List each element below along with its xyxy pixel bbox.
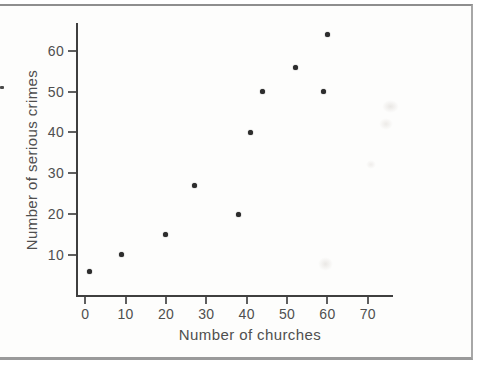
data-point: [87, 269, 92, 274]
x-tick-label: 30: [186, 306, 226, 322]
y-tick: [68, 91, 76, 93]
x-axis-title: Number of churches: [179, 326, 321, 343]
x-tick: [367, 297, 369, 304]
data-point: [192, 183, 197, 188]
y-axis-title: Number of serious crimes: [23, 70, 40, 250]
y-tick: [68, 254, 76, 256]
data-point: [236, 212, 241, 217]
y-tick: [68, 213, 76, 215]
x-tick: [246, 297, 248, 304]
x-tick-label: 10: [106, 306, 146, 322]
data-point: [321, 89, 326, 94]
y-axis-line: [76, 23, 78, 297]
y-tick: [68, 50, 76, 52]
y-tick: [68, 131, 76, 133]
x-tick: [326, 297, 328, 304]
x-tick-label: 60: [307, 306, 347, 322]
x-axis-line: [76, 295, 393, 297]
x-tick-label: 20: [146, 306, 186, 322]
data-point: [293, 65, 298, 70]
x-tick: [165, 297, 167, 304]
y-tick-label: 60: [24, 43, 64, 59]
scanned-figure-page: 010203040506070102030405060 Number of ch…: [0, 0, 483, 370]
y-tick: [68, 172, 76, 174]
x-tick-label: 70: [348, 306, 388, 322]
data-point: [325, 32, 330, 37]
x-tick: [286, 297, 288, 304]
x-tick-label: 0: [65, 306, 105, 322]
x-tick: [205, 297, 207, 304]
x-tick: [84, 297, 86, 304]
x-tick-label: 40: [227, 306, 267, 322]
x-tick: [125, 297, 127, 304]
x-tick-label: 50: [267, 306, 307, 322]
cutoff-text-fragment: [0, 86, 4, 89]
